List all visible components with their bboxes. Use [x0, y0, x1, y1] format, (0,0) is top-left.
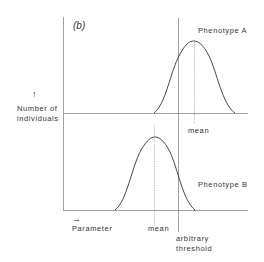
y-axis-label-line1: Number of [17, 104, 57, 113]
phenotype-a-mean-label: mean [188, 126, 209, 135]
y-axis-arrow-icon: ↑ [32, 89, 37, 99]
phenotype-b-label: Phenotype B [198, 180, 248, 189]
phenotype-b-curve [115, 137, 195, 210]
diagram-canvas [0, 0, 264, 262]
panel-label: (b) [73, 20, 85, 31]
x-axis-arrow-icon: → [72, 214, 82, 224]
x-axis-label: Parameter [72, 224, 112, 233]
y-axis-label-line2: individuals [17, 114, 59, 123]
threshold-label-line1: arbitrary [176, 234, 209, 243]
phenotype-a-label: Phenotype A [198, 26, 247, 35]
threshold-label-line2: threshold [176, 244, 212, 253]
phenotype-b-mean-label: mean [148, 224, 169, 233]
